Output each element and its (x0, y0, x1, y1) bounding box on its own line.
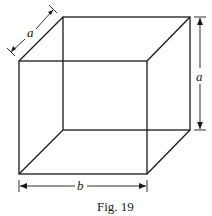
cuboid-diagram: a a b Fig. 19 (0, 0, 212, 216)
figure-caption: Fig. 19 (97, 199, 134, 214)
height-dimension: a (194, 17, 206, 130)
width-dimension: b (19, 178, 147, 193)
height-label: a (196, 69, 203, 84)
edge-top-right (147, 17, 190, 61)
width-label: b (77, 178, 84, 193)
back-face (63, 17, 190, 130)
front-face (19, 61, 147, 174)
edge-bottom-left (19, 130, 63, 174)
depth-label: a (27, 25, 34, 40)
edge-bottom-right (147, 130, 190, 174)
